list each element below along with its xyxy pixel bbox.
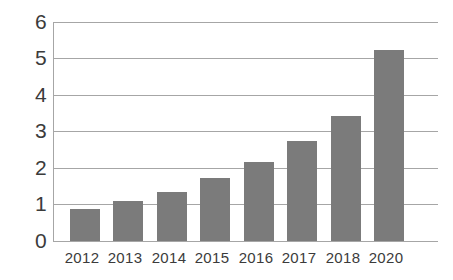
bar-2014[interactable] [157, 192, 187, 241]
y-tick-label-2: 2 [7, 157, 47, 178]
bar-2018[interactable] [331, 116, 361, 241]
bar-2020[interactable] [374, 50, 404, 241]
bar-chart: 6 5 4 3 2 1 0 2012 2013 2014 2015 2016 2 [0, 0, 453, 280]
bar-2013[interactable] [113, 201, 143, 241]
y-tick-label-3: 3 [7, 120, 47, 141]
y-tick-label-0: 0 [7, 230, 47, 251]
y-tick-label-5: 5 [7, 47, 47, 68]
bar-2015[interactable] [200, 178, 230, 241]
gridline-0-baseline [53, 241, 438, 242]
x-tick-label-2020: 2020 [354, 250, 418, 265]
bars-layer [53, 22, 438, 241]
bar-2012[interactable] [70, 209, 100, 241]
bar-2017[interactable] [287, 141, 317, 241]
y-tick-label-6: 6 [7, 11, 47, 32]
y-tick-label-1: 1 [7, 193, 47, 214]
y-axis-tick-labels: 6 5 4 3 2 1 0 [0, 0, 47, 280]
y-tick-label-4: 4 [7, 84, 47, 105]
bar-2016[interactable] [244, 162, 274, 241]
